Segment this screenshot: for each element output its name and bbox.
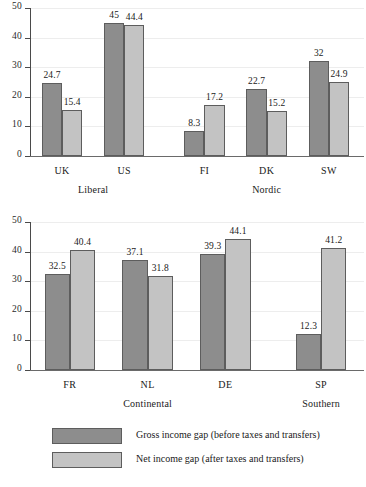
bar-value-label: 15.4 — [56, 97, 88, 107]
bar-group-us: 4544.4 — [93, 8, 155, 156]
bar-sw-net — [329, 82, 349, 156]
bar-group-sp: 12.341.2 — [282, 222, 360, 370]
y-tick-mark — [25, 97, 30, 98]
y-tick-label: 0 — [0, 149, 22, 159]
y-tick-mark — [25, 311, 30, 312]
bar-sp-gross — [296, 334, 321, 370]
y-tick-label: 40 — [0, 31, 22, 41]
bar-fr-net — [70, 250, 95, 370]
y-tick-label: 0 — [0, 363, 22, 373]
bar-value-label: 32 — [303, 48, 335, 58]
figure-root: 01020304050 24.715.44544.48.317.222.715.… — [0, 0, 366, 487]
bar-us-gross — [104, 23, 124, 156]
y-tick-mark — [25, 8, 30, 9]
bar-value-label: 41.2 — [315, 235, 352, 245]
y-tick-label: 10 — [0, 333, 22, 343]
bar-value-label: 31.8 — [142, 263, 179, 273]
y-tick-label: 30 — [0, 274, 22, 284]
y-tick-label: 40 — [0, 245, 22, 255]
y-tick-label: 50 — [0, 215, 22, 225]
category-label-us: US — [93, 165, 155, 176]
bar-value-label: 15.2 — [261, 98, 293, 108]
bar-value-label: 24.9 — [323, 69, 355, 79]
y-tick-mark — [25, 67, 30, 68]
bar-nl-net — [148, 276, 173, 370]
bar-group-fi: 8.317.2 — [173, 8, 235, 156]
bar-dk-net — [267, 111, 287, 156]
group-label-nordic: Nordic — [173, 184, 360, 195]
bar-group-dk: 22.715.2 — [236, 8, 298, 156]
bar-value-label: 40.4 — [64, 237, 101, 247]
category-label-fi: FI — [173, 165, 235, 176]
y-tick-label: 10 — [0, 119, 22, 129]
bar-value-label: 44.1 — [219, 226, 256, 236]
bar-value-label: 44.4 — [118, 12, 150, 22]
chart1-x-axis — [30, 370, 364, 371]
bar-uk-net — [62, 110, 82, 156]
y-tick-label: 50 — [0, 1, 22, 11]
category-label-sw: SW — [298, 165, 360, 176]
group-label-liberal: Liberal — [31, 184, 155, 195]
category-label-uk: UK — [31, 165, 93, 176]
category-label-de: DE — [187, 379, 265, 390]
y-tick-label: 20 — [0, 304, 22, 314]
bar-fr-gross — [45, 274, 70, 370]
chart-continental-southern: 01020304050 32.540.437.131.839.344.112.3… — [0, 222, 366, 412]
bar-de-gross — [200, 254, 225, 370]
bar-sp-net — [321, 248, 346, 370]
bar-value-label: 37.1 — [116, 247, 153, 257]
category-label-fr: FR — [31, 379, 109, 390]
category-label-nl: NL — [109, 379, 187, 390]
bar-group-nl: 37.131.8 — [109, 222, 187, 370]
bar-value-label: 22.7 — [240, 76, 272, 86]
y-tick-mark — [25, 222, 30, 223]
y-tick-label: 20 — [0, 90, 22, 100]
legend-swatch-gross — [52, 428, 122, 444]
y-tick-mark — [25, 126, 30, 127]
bar-fi-net — [204, 105, 224, 156]
y-tick-mark — [25, 252, 30, 253]
bar-group-uk: 24.715.4 — [31, 8, 93, 156]
y-tick-mark — [25, 281, 30, 282]
group-label-continental: Continental — [31, 398, 264, 409]
category-label-dk: DK — [236, 165, 298, 176]
group-label-southern: Southern — [282, 398, 360, 409]
legend-swatch-net — [52, 452, 122, 468]
bar-de-net — [225, 239, 250, 370]
legend-label-gross: Gross income gap (before taxes and trans… — [136, 429, 320, 440]
bar-group-fr: 32.540.4 — [31, 222, 109, 370]
y-tick-label: 30 — [0, 60, 22, 70]
bar-us-net — [124, 25, 144, 156]
legend-label-net: Net income gap (after taxes and transfer… — [136, 453, 304, 464]
y-tick-mark — [25, 38, 30, 39]
bar-value-label: 17.2 — [198, 92, 230, 102]
bar-group-sw: 3224.9 — [298, 8, 360, 156]
chart-liberal-nordic: 01020304050 24.715.44544.48.317.222.715.… — [0, 8, 366, 198]
bar-fi-gross — [184, 131, 204, 156]
y-tick-mark — [25, 340, 30, 341]
bar-value-label: 24.7 — [36, 70, 68, 80]
category-label-sp: SP — [282, 379, 360, 390]
bar-uk-gross — [42, 83, 62, 156]
bar-nl-gross — [122, 260, 147, 370]
bar-group-de: 39.344.1 — [187, 222, 265, 370]
chart0-x-axis — [30, 156, 364, 157]
